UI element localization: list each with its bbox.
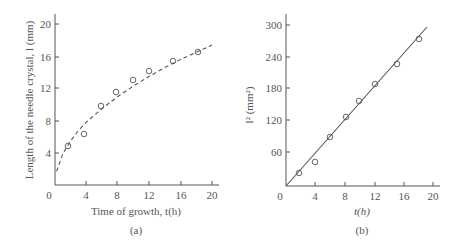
- chart-b-fit-line: [286, 27, 427, 186]
- chart-a-ytick-label: 12: [40, 82, 51, 94]
- chart-b-xtick-label: 16: [399, 190, 411, 202]
- chart-a-xtick-label: 12: [144, 189, 155, 201]
- chart-a-data-points: [65, 49, 201, 149]
- chart-a-panel-label: (a): [130, 224, 143, 237]
- chart-b-ytick-label: 60: [271, 146, 283, 158]
- chart-b-ytick-label: 300: [266, 19, 283, 31]
- chart-a-xtick-label: 20: [207, 189, 219, 201]
- chart-a-fit-curve: [57, 45, 212, 171]
- chart-b-xtick-label: 12: [370, 190, 381, 202]
- chart-a-x-axis-title: Time of growth, t(h): [91, 205, 181, 218]
- chart-a-xtick-label: 8: [114, 189, 120, 201]
- chart-b-labels: 0 4 8 12 16 20 60 120 180 240 300 t(h) l…: [243, 19, 439, 237]
- chart-b-xtick-label: 20: [428, 190, 440, 202]
- chart-b-xtick-label: 4: [312, 190, 318, 202]
- chart-a-y-axis-title: Length of the needle crystal, l (mm): [23, 20, 36, 179]
- chart-a-labels: 0 4 8 12 16 20 4 8 12 16 20 Time of grow…: [23, 18, 218, 237]
- chart-a-ytick-label: 4: [46, 147, 52, 159]
- chart-b-xtick-label: 8: [342, 190, 348, 202]
- chart-b-origin-label: 0: [277, 190, 283, 202]
- figure: 0 4 8 12 16 20 4 8 12 16 20 Time of grow…: [0, 0, 460, 248]
- chart-a-xtick-label: 4: [83, 189, 89, 201]
- chart-b-x-axis-title: t(h): [354, 205, 370, 218]
- chart-b-data-points: [296, 36, 422, 176]
- chart-a-ytick-label: 16: [40, 51, 52, 63]
- chart-b-ytick-label: 180: [266, 82, 283, 94]
- chart-a-ytick-label: 8: [46, 115, 52, 127]
- chart-b-ytick-label: 120: [266, 114, 283, 126]
- chart-a: [55, 14, 219, 185]
- chart-b-y-axis-title: l² (mm²): [243, 86, 256, 123]
- chart-a-xtick-label: 16: [176, 189, 188, 201]
- chart-b-ytick-label: 240: [266, 51, 283, 63]
- chart-a-ytick-label: 20: [40, 18, 52, 30]
- chart-b-panel-label: (b): [356, 224, 369, 237]
- chart-a-origin-label: 0: [46, 189, 52, 201]
- chart-b: [286, 14, 440, 186]
